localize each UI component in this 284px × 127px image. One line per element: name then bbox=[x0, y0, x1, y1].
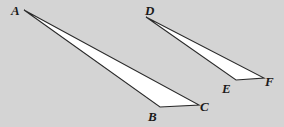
label-d: D bbox=[144, 3, 155, 18]
triangle-def bbox=[146, 17, 264, 80]
diagram-canvas: A B C D E F bbox=[0, 0, 284, 127]
label-b: B bbox=[147, 109, 157, 124]
label-c: C bbox=[200, 99, 209, 114]
label-f: F bbox=[264, 74, 274, 89]
label-e: E bbox=[221, 81, 231, 96]
triangles-figure: A B C D E F bbox=[0, 0, 284, 127]
label-a: A bbox=[10, 3, 20, 18]
triangle-abc bbox=[24, 10, 199, 107]
